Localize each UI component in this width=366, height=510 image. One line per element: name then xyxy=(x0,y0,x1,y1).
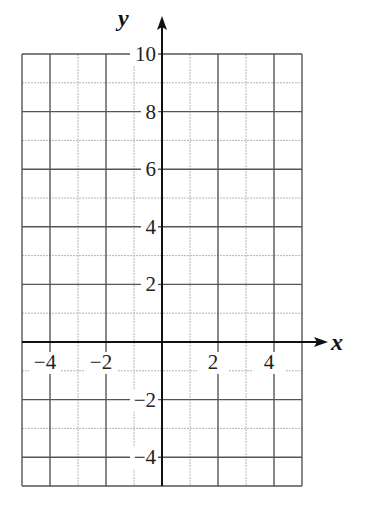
y-tick-label: −4 xyxy=(134,445,157,469)
y-tick-label: 8 xyxy=(146,100,157,124)
x-axis-label: x xyxy=(330,329,343,355)
coordinate-grid-chart: xy−4−224108642−2−4 xyxy=(0,0,366,510)
y-tick-label: 4 xyxy=(146,215,157,239)
x-tick-label: −4 xyxy=(34,350,57,374)
x-tick-label: −2 xyxy=(90,350,112,374)
y-tick-label: 6 xyxy=(146,157,157,181)
y-tick-label: −2 xyxy=(134,388,156,412)
y-tick-label: 2 xyxy=(146,272,157,296)
x-tick-label: 2 xyxy=(208,350,219,374)
y-axis-label: y xyxy=(115,5,129,31)
y-tick-label: 10 xyxy=(135,42,156,66)
axes xyxy=(22,16,328,486)
x-tick-label: 4 xyxy=(264,350,275,374)
